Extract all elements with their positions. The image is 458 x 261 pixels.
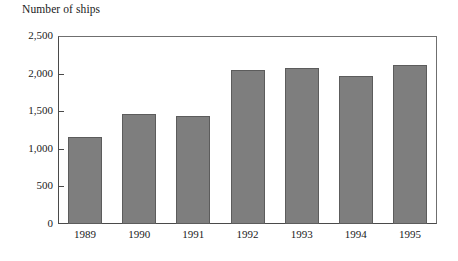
- y-axis-tick-mark: [58, 149, 64, 150]
- x-axis-tick-label: 1995: [380, 228, 440, 240]
- bar: [339, 76, 373, 224]
- y-axis-tick-labels: 05001,0001,5002,0002,500: [0, 0, 53, 261]
- y-axis-tick-label: 2,500: [28, 30, 53, 41]
- bar: [393, 65, 427, 224]
- bars-layer: [58, 36, 437, 224]
- y-axis-tick-label: 0: [48, 218, 54, 229]
- x-axis-tick-label: 1994: [326, 228, 386, 240]
- bar: [68, 137, 102, 224]
- x-axis-tick-label: 1991: [163, 228, 223, 240]
- y-axis-tick-mark: [58, 186, 64, 187]
- x-axis-tick-label: 1992: [218, 228, 278, 240]
- bar: [122, 114, 156, 224]
- x-axis-tick-label: 1989: [55, 228, 115, 240]
- bar: [231, 70, 265, 224]
- x-axis-tick-label: 1990: [109, 228, 169, 240]
- y-axis-tick-mark: [58, 111, 64, 112]
- x-axis-tick-label: 1993: [272, 228, 332, 240]
- bar-chart: Number of ships 05001,0001,5002,0002,500…: [0, 0, 458, 261]
- y-axis-tick-label: 1,000: [28, 143, 53, 154]
- y-axis-tick-label: 1,500: [28, 105, 53, 116]
- y-axis-tick-label: 500: [37, 180, 54, 191]
- bar: [176, 116, 210, 224]
- y-axis-tick-label: 2,000: [28, 68, 53, 79]
- bar: [285, 68, 319, 224]
- y-axis-tick-mark: [58, 74, 64, 75]
